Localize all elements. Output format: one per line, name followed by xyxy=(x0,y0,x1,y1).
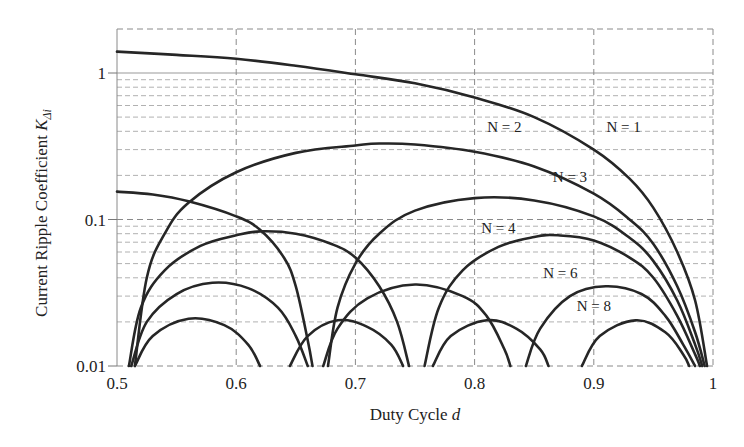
x-tick-label: 0.5 xyxy=(106,374,127,393)
y-axis-title: Current Ripple Coefficient KΔi xyxy=(32,109,54,317)
curve-label-n-4: N = 4 xyxy=(481,220,516,236)
ripple-coefficient-chart: N = 1N = 2N = 3N = 4N = 6N = 8 0.50.60.7… xyxy=(0,0,744,447)
curve-label-n-1: N = 1 xyxy=(606,119,640,135)
curve-label-n-8: N = 8 xyxy=(577,298,611,314)
chart-canvas: N = 1N = 2N = 3N = 4N = 6N = 8 0.50.60.7… xyxy=(0,0,744,447)
x-tick-label: 0.6 xyxy=(226,374,247,393)
curve-n-8 xyxy=(135,318,689,366)
x-axis-ticks: 0.50.60.70.80.91 xyxy=(106,374,717,393)
curve-labels: N = 1N = 2N = 3N = 4N = 6N = 8 xyxy=(481,119,640,315)
curve-n-6 xyxy=(131,282,695,366)
x-axis-title: Duty Cycle d xyxy=(370,405,461,424)
curve-n-4 xyxy=(129,231,700,366)
curve-segment xyxy=(323,284,510,366)
curve-label-n-2: N = 2 xyxy=(487,119,521,135)
grid-lines xyxy=(117,29,713,366)
x-tick-label: 0.9 xyxy=(583,374,604,393)
curve-n-2 xyxy=(135,143,705,366)
x-tick-label: 1 xyxy=(709,374,718,393)
y-tick-label: 1 xyxy=(98,64,107,83)
y-axis-ticks: 0.010.11 xyxy=(76,64,117,376)
curve-segment xyxy=(290,320,403,366)
curves xyxy=(117,52,707,366)
x-tick-label: 0.7 xyxy=(345,374,367,393)
y-tick-label: 0.1 xyxy=(85,211,106,230)
curve-segment xyxy=(433,320,549,366)
y-tick-label: 0.01 xyxy=(76,357,106,376)
curve-segment xyxy=(135,143,705,366)
curve-label-n-3: N = 3 xyxy=(553,169,587,185)
curve-n-3 xyxy=(117,192,702,366)
curve-segment xyxy=(135,318,260,366)
curve-label-n-6: N = 6 xyxy=(543,265,578,281)
x-tick-label: 0.8 xyxy=(464,374,485,393)
